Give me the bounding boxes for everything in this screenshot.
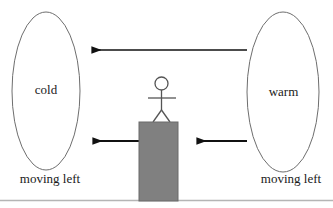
stick-figure-leg-right (162, 110, 171, 122)
stick-figure-leg-left (153, 110, 162, 122)
warm-region-label: warm (247, 85, 320, 98)
stick-figure-head-icon (155, 77, 168, 90)
diagram-canvas: cold warm moving left moving left (0, 0, 333, 208)
stick-figure (148, 77, 176, 122)
platform-block (139, 122, 178, 201)
cold-region-label: cold (12, 83, 80, 96)
cold-caption: moving left (8, 172, 92, 185)
warm-caption: moving left (249, 172, 333, 185)
